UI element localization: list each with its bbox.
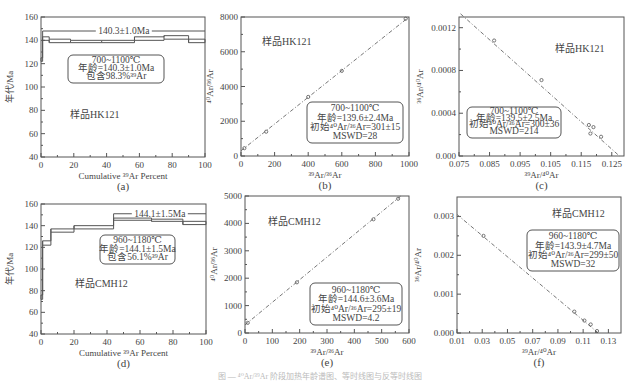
sample-label: 样品HK121 [262, 35, 311, 47]
y-tick-label: 160 [25, 12, 39, 22]
result-line: MSWD=214 [489, 126, 538, 136]
x-tick-label: 600 [335, 159, 349, 169]
panel-label: (f) [534, 356, 545, 369]
y-tick-label: 60 [29, 129, 39, 139]
plot-frame [41, 17, 205, 157]
figure-canvas: 020406080100406080100120140160Cumulative… [0, 0, 631, 381]
y-tick-label: 140 [25, 35, 39, 45]
x-tick-label: 40 [102, 160, 112, 170]
data-point [243, 147, 246, 150]
y-tick-label: 100 [25, 264, 39, 274]
y-tick-label: 60 [29, 307, 39, 317]
x-tick-label: 60 [136, 337, 146, 347]
y-tick-label: 0.002 [434, 250, 454, 260]
y-tick-label: 160 [25, 199, 39, 209]
y-tick-label: 40 [29, 329, 39, 339]
x-tick-label: 0.07 [525, 336, 541, 346]
y-tick-label: 40 [29, 152, 39, 162]
x-tick-label: 0.125 [602, 159, 623, 169]
chart-panel-b: 0200400600800100002000400060008000³⁹Ar/³… [205, 12, 419, 192]
figure-caption: 图 — ⁴⁰Ar/³⁹Ar 阶段加热年龄谱图、等时线图与反等时线图 [60, 370, 580, 381]
data-point [599, 135, 602, 138]
result-line: MSWD=28 [333, 131, 378, 141]
sample-label: 样品HK121 [555, 42, 604, 54]
x-tick-label: 0 [239, 159, 244, 169]
y-tick-label: 140 [25, 221, 39, 231]
y-tick-label: 1000 [224, 301, 243, 311]
data-point [592, 126, 595, 129]
x-tick-label: 0.09 [550, 336, 566, 346]
y-tick-label: 5000 [224, 191, 243, 201]
panel-label: (b) [319, 179, 332, 192]
x-tick-label: 400 [348, 336, 362, 346]
x-tick-label: 1000 [400, 159, 419, 169]
sample-label: 样品CMH12 [75, 277, 128, 289]
y-axis-label: ³⁶Ar/⁴⁰Ar [415, 69, 425, 103]
plateau-age-label: 140.3±1.0Ma [98, 26, 150, 36]
result-line: MSWD=32 [551, 259, 596, 269]
result-line: 960~1180℃ [332, 285, 381, 295]
y-tick-label: 3000 [224, 246, 243, 256]
x-tick-label: 0.115 [571, 159, 591, 169]
y-tick-label: 4000 [220, 82, 239, 92]
x-tick-label: 400 [301, 159, 315, 169]
x-tick-label: 80 [168, 160, 178, 170]
data-point [540, 78, 543, 81]
y-tick-label: 80 [29, 105, 39, 115]
x-tick-label: 20 [70, 337, 80, 347]
sample-label: 样品HK121 [70, 108, 119, 120]
y-tick-label: 120 [25, 242, 39, 252]
y-tick-label: 0.001 [434, 289, 454, 299]
x-tick-label: 0.085 [479, 159, 500, 169]
y-tick-label: 4000 [224, 218, 243, 228]
data-point [589, 132, 592, 135]
x-tick-label: 600 [402, 336, 416, 346]
y-tick-label: 0.000 [434, 328, 455, 338]
x-tick-label: 0.095 [510, 159, 531, 169]
y-axis-label: 年代/Ma [4, 253, 15, 286]
x-tick-label: 0.11 [575, 336, 590, 346]
x-tick-label: 0 [39, 160, 44, 170]
plateau-age-label: 144.1±1.5Ma [134, 209, 186, 219]
panel-label: (c) [535, 179, 548, 192]
data-point [589, 323, 592, 326]
x-tick-label: 0.105 [541, 159, 562, 169]
result-line: MSWD=4.2 [333, 313, 380, 323]
y-tick-label: 0 [238, 328, 243, 338]
x-tick-label: 20 [69, 160, 79, 170]
y-tick-label: 0.000 [436, 151, 457, 161]
x-tick-label: 100 [199, 337, 213, 347]
x-tick-label: 0.13 [601, 336, 617, 346]
panel-label: (e) [321, 356, 334, 369]
y-tick-label: 0 [234, 151, 239, 161]
data-point [493, 39, 496, 42]
y-tick-label: 120 [25, 59, 39, 69]
x-tick-label: 60 [135, 160, 145, 170]
x-tick-label: 40 [103, 337, 113, 347]
y-axis-label: ⁴⁰Ar/³⁶Ar [205, 69, 215, 103]
chart-panel-c: 0.0750.0850.0950.1050.1150.1250.0000.000… [415, 14, 624, 192]
result-line: 包含56.1%³⁹Ar [107, 251, 169, 262]
x-tick-label: 0 [39, 337, 44, 347]
x-tick-label: 100 [266, 336, 280, 346]
x-tick-label: 80 [169, 337, 179, 347]
x-tick-label: 800 [369, 159, 383, 169]
data-point [307, 95, 310, 98]
y-tick-label: 0.003 [434, 211, 455, 221]
y-tick-label: 8000 [220, 12, 239, 22]
x-tick-label: 200 [293, 336, 307, 346]
x-tick-label: 0.03 [474, 336, 490, 346]
y-tick-label: 2000 [220, 116, 239, 126]
y-axis-label: 年代/Ma [4, 71, 15, 104]
y-tick-label: 80 [29, 286, 39, 296]
x-tick-label: 500 [375, 336, 389, 346]
x-tick-label: 0 [243, 336, 248, 346]
x-tick-label: 100 [198, 160, 212, 170]
data-point [587, 123, 590, 126]
y-axis-label: ⁴⁰Ar/³⁶Ar [209, 247, 219, 281]
panel-label: (d) [117, 357, 130, 370]
chart-panel-f: 0.010.030.050.070.090.110.130.0000.0010.… [413, 197, 621, 369]
y-tick-label: 6000 [220, 47, 239, 57]
result-line: 年龄=144.6±3.6Ma [318, 293, 395, 304]
y-tick-label: 0.0008 [431, 65, 456, 75]
